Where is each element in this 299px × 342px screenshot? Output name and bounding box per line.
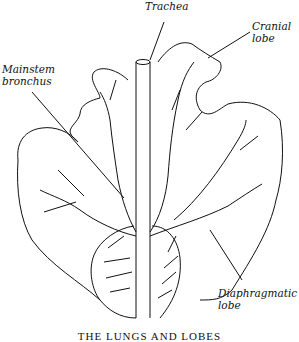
right-cranial-lobe — [158, 43, 283, 300]
left-diaphragmatic-lobe — [18, 128, 100, 300]
trachea-shape — [136, 60, 150, 319]
label-cranial-lobe: Cranial lobe — [252, 20, 291, 44]
label-trachea: Trachea — [145, 0, 188, 12]
left-cranial-lobe — [70, 69, 128, 142]
label-diaphragmatic-lobe: Diaphragmatic lobe — [218, 287, 297, 311]
label-mainstem-bronchus: Mainstem bronchus — [2, 63, 55, 87]
figure-caption: THE LUNGS AND LOBES — [0, 330, 299, 342]
